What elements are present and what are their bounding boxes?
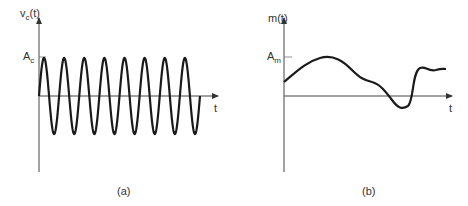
panel-b-ylabel: m(t) <box>268 13 288 24</box>
panel-b-caption: (b) <box>362 186 375 197</box>
panel-a-ylabel: vc(t) <box>20 8 40 22</box>
panel-b-axes <box>284 18 452 172</box>
panel-b-amplitude-label: Am <box>267 51 281 65</box>
panel-b-xlabel: t <box>449 103 452 114</box>
message-signal <box>284 57 446 108</box>
panel-a-amplitude-label: Ac <box>23 51 34 65</box>
panel-a-caption: (a) <box>117 186 130 197</box>
panel-a-xlabel: t <box>214 103 217 114</box>
figure-canvas <box>0 0 468 206</box>
